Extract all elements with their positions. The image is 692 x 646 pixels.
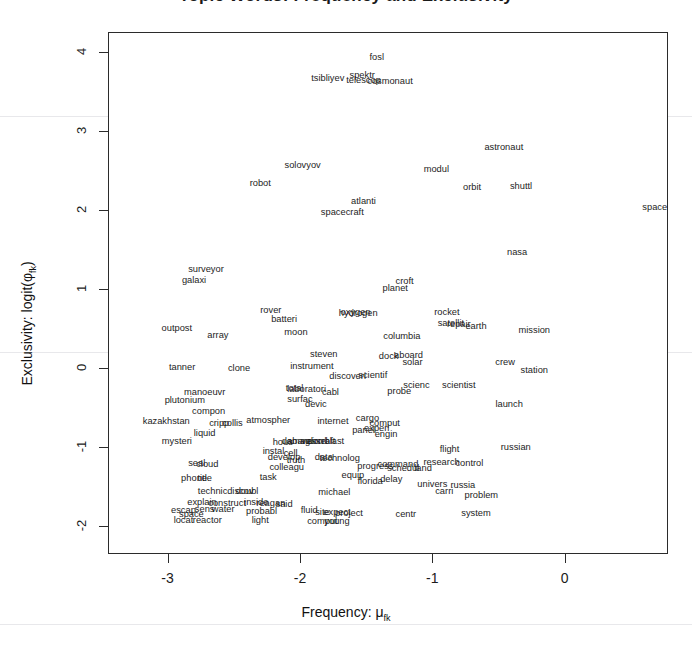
word-label: task bbox=[260, 473, 277, 482]
word-label: clone bbox=[228, 364, 250, 373]
word-label: fosl bbox=[370, 53, 384, 62]
word-label: surveyor bbox=[188, 265, 224, 274]
word-label: cosmonaut bbox=[367, 77, 412, 86]
x-tick bbox=[300, 554, 301, 563]
word-label: mysteri bbox=[162, 438, 192, 447]
word-label: tanner bbox=[169, 363, 195, 372]
word-label: robot bbox=[250, 179, 271, 188]
word-label: crew bbox=[495, 358, 515, 367]
word-label: delay bbox=[380, 475, 402, 484]
x-axis-label-subscript: fk bbox=[383, 613, 390, 623]
word-label: internet bbox=[318, 417, 349, 426]
word-label: batteri bbox=[271, 315, 297, 324]
word-scatter-layer: fosltsibliyevspektrtelescopcosmonautastr… bbox=[0, 0, 560, 522]
word-label: probe bbox=[387, 387, 411, 396]
word-label: michael bbox=[318, 488, 350, 497]
word-label: launch bbox=[495, 401, 522, 410]
word-label: said bbox=[276, 500, 293, 509]
word-label: spacecraft bbox=[321, 208, 364, 217]
x-axis-label-text: Frequency: μ bbox=[301, 604, 383, 620]
word-label: panel bbox=[352, 427, 375, 436]
word-label: kazakhstan bbox=[143, 417, 190, 426]
word-label: solovyov bbox=[285, 162, 321, 171]
word-label: scientif bbox=[358, 371, 387, 380]
word-label: atlanti bbox=[351, 197, 376, 206]
word-label: atmospher bbox=[246, 416, 290, 425]
word-label: devic bbox=[305, 400, 327, 409]
word-label: columbia bbox=[383, 332, 420, 341]
word-label: astronaut bbox=[484, 144, 523, 153]
word-label: flight bbox=[440, 445, 460, 454]
word-label: cabl bbox=[322, 388, 339, 397]
word-label: outpost bbox=[162, 324, 193, 333]
word-label: earth bbox=[465, 322, 486, 331]
word-label: discov bbox=[227, 488, 253, 497]
word-label: system bbox=[461, 509, 490, 518]
word-label: cloud bbox=[196, 461, 218, 470]
word-label: title bbox=[197, 474, 211, 483]
y-tick bbox=[99, 526, 108, 527]
word-label: hydrogen bbox=[339, 309, 378, 318]
word-label: modul bbox=[424, 166, 449, 175]
word-label: instrument bbox=[290, 362, 333, 371]
word-label: orbit bbox=[463, 183, 481, 192]
x-tick-label: -2 bbox=[294, 570, 306, 586]
word-label: space bbox=[642, 203, 667, 212]
x-axis-label: Frequency: μfk bbox=[0, 604, 692, 623]
word-label: technic bbox=[198, 487, 227, 496]
word-label: blast bbox=[325, 437, 345, 446]
word-label: liquid bbox=[194, 429, 216, 438]
word-label: solar bbox=[402, 359, 422, 368]
x-tick-label: -3 bbox=[161, 570, 173, 586]
word-label: plutonium bbox=[165, 397, 205, 406]
word-label: moon bbox=[284, 329, 307, 338]
word-label: mission bbox=[519, 326, 551, 335]
word-label: russia bbox=[450, 481, 475, 490]
word-label: engin bbox=[375, 431, 398, 440]
word-label: research bbox=[424, 458, 460, 467]
word-label: scientist bbox=[442, 381, 476, 390]
word-label: problem bbox=[465, 492, 499, 501]
word-label: colleagu bbox=[269, 463, 304, 472]
word-label: light bbox=[252, 516, 269, 525]
word-label: array bbox=[207, 331, 228, 340]
word-label: collis bbox=[222, 419, 243, 428]
word-label: steven bbox=[310, 350, 337, 359]
word-label: water bbox=[212, 505, 235, 514]
x-tick bbox=[168, 554, 169, 563]
word-label: reactor bbox=[193, 516, 222, 525]
word-label: shuttl bbox=[510, 182, 532, 191]
word-label: compon bbox=[192, 408, 225, 417]
word-label: nasa bbox=[507, 248, 527, 257]
word-label: rocket bbox=[434, 308, 459, 317]
chart-root: Topic Words: Frequency and Exclusivity -… bbox=[0, 0, 692, 646]
word-label: planet bbox=[383, 284, 408, 293]
word-label: galaxi bbox=[182, 276, 206, 285]
x-tick bbox=[432, 554, 433, 563]
word-label: station bbox=[521, 366, 548, 375]
word-label: centr bbox=[396, 511, 417, 520]
word-label: control bbox=[455, 459, 483, 468]
word-label: russian bbox=[501, 443, 531, 452]
word-label: locat bbox=[174, 516, 194, 525]
word-label: tsibliyev bbox=[311, 75, 344, 84]
x-tick-label: -1 bbox=[426, 570, 438, 586]
word-label: young bbox=[324, 518, 349, 527]
x-tick bbox=[565, 554, 566, 563]
word-label: technolog bbox=[320, 454, 360, 463]
word-label: florida bbox=[357, 477, 382, 486]
x-tick-label: 0 bbox=[561, 570, 569, 586]
